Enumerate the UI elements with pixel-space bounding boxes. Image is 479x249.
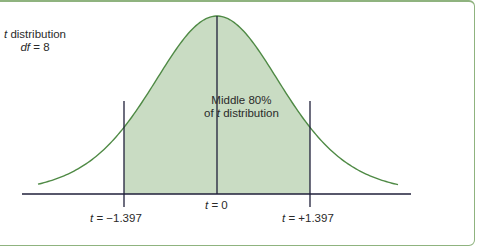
distribution-title: t distribution df = 8 <box>4 28 66 54</box>
region-prefix: of <box>204 107 217 119</box>
region-percent: Middle 80% <box>204 94 279 107</box>
tick-right: t = +1.397 <box>282 212 334 225</box>
tick-left: t = −1.397 <box>90 212 142 225</box>
tick-center-value: = 0 <box>208 199 228 211</box>
df-value: = 8 <box>30 41 50 53</box>
tick-center: t = 0 <box>205 199 228 212</box>
t-distribution-plot <box>0 0 479 249</box>
tick-right-value: = +1.397 <box>285 212 334 224</box>
title-text: distribution <box>7 28 66 40</box>
df-var: df <box>20 41 30 53</box>
tick-left-value: = −1.397 <box>93 212 142 224</box>
middle-region-label: Middle 80% of t distribution <box>204 94 279 120</box>
region-suffix: distribution <box>220 107 279 119</box>
